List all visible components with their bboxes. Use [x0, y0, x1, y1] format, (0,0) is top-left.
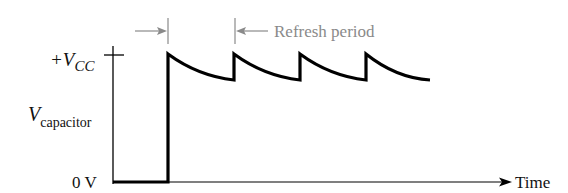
capacitor-voltage-waveform — [113, 54, 430, 182]
vcc-label: +VCC — [50, 49, 95, 74]
zero-volt-label: 0 V — [72, 173, 97, 192]
refresh-period-label: Refresh period — [274, 22, 375, 41]
time-axis-label: Time — [515, 173, 550, 192]
vcapacitor-label: Vcapacitor — [28, 103, 92, 130]
refresh-diagram: Refresh period +VCC Vcapacitor 0 V Time — [0, 0, 568, 193]
